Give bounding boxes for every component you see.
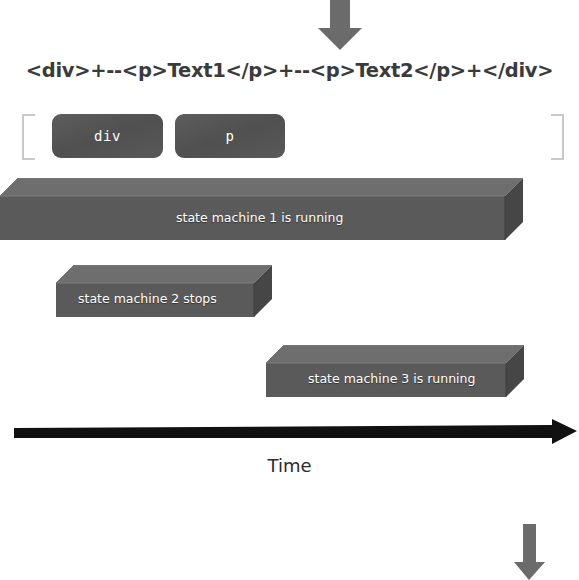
timeline-bar-2[interactable]: state machine 2 stops xyxy=(56,265,276,327)
flow-out-arrow-icon xyxy=(514,524,554,580)
diagram-canvas: <div>+--<p>Text1</p>+--<p>Text2</p>+</di… xyxy=(0,0,579,580)
node-row: div p xyxy=(0,112,579,162)
time-axis-arrow-icon xyxy=(14,417,579,449)
timeline-bar-1[interactable]: state machine 1 is running xyxy=(0,178,530,254)
bracket-left-icon xyxy=(22,114,35,160)
node-box-div-label: div xyxy=(94,128,121,144)
bracket-right-icon xyxy=(551,114,564,160)
timeline-bar-3-label: state machine 3 is running xyxy=(308,371,475,386)
timeline-bar-2-label: state machine 2 stops xyxy=(78,291,217,306)
node-box-p[interactable]: p xyxy=(175,114,285,158)
timeline-bar-1-label: state machine 1 is running xyxy=(176,210,343,225)
code-line: <div>+--<p>Text1</p>+--<p>Text2</p>+</di… xyxy=(0,59,579,82)
node-box-div[interactable]: div xyxy=(52,114,163,158)
node-box-p-label: p xyxy=(226,128,235,144)
timeline-bar-3[interactable]: state machine 3 is running xyxy=(266,345,530,407)
flow-in-arrow-icon xyxy=(318,0,370,56)
time-axis-label: Time xyxy=(0,455,579,476)
